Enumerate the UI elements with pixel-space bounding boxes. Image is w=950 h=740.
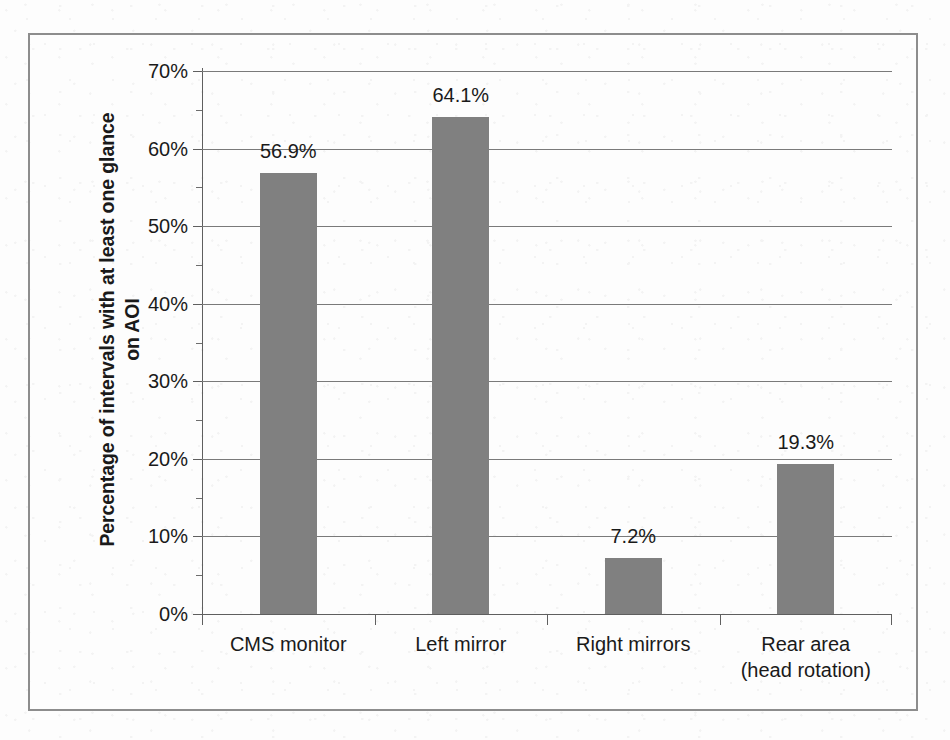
y-tick-minor [196, 110, 202, 111]
y-tick-minor [196, 420, 202, 421]
y-tick-label: 10% [148, 525, 188, 548]
y-tick-major [193, 226, 202, 227]
x-tick-label: Left mirror [415, 631, 506, 657]
y-tick-major [193, 614, 202, 615]
gridline [202, 71, 892, 72]
y-tick-minor [196, 187, 202, 188]
y-tick-label: 30% [148, 370, 188, 393]
bar[interactable] [260, 173, 317, 614]
y-tick-label: 20% [148, 447, 188, 470]
x-tick-label: CMS monitor [230, 631, 347, 657]
y-tick-major [193, 149, 202, 150]
y-tick-label: 60% [148, 137, 188, 160]
bar-value-label: 56.9% [260, 140, 317, 163]
y-tick-major [193, 304, 202, 305]
y-tick-minor [196, 498, 202, 499]
x-tick-major [720, 614, 721, 625]
bar[interactable] [432, 117, 489, 614]
bar-value-label: 19.3% [777, 431, 834, 454]
y-axis-line [202, 68, 203, 617]
x-tick-major [547, 614, 548, 625]
x-tick-major [375, 614, 376, 625]
y-tick-major [193, 459, 202, 460]
x-tick-label: Right mirrors [576, 631, 690, 657]
x-tick-label-line: Left mirror [415, 633, 506, 655]
x-tick-label-line: Right mirrors [576, 633, 690, 655]
bar[interactable] [605, 558, 662, 614]
figure-canvas: Percentage of intervals with at least on… [0, 0, 950, 740]
plot-area: 70%60%50%40%30%20%10%0% 56.9%64.1%7.2%19… [202, 71, 892, 614]
y-tick-label: 70% [148, 60, 188, 83]
y-axis-title: Percentage of intervals with at least on… [95, 65, 144, 595]
x-tick-major [202, 614, 203, 625]
x-tick-label-line: CMS monitor [230, 633, 347, 655]
y-tick-major [193, 381, 202, 382]
y-tick-minor [196, 575, 202, 576]
bar-value-label: 64.1% [432, 84, 489, 107]
figure-frame: Percentage of intervals with at least on… [28, 33, 918, 711]
x-tick-label-line: (head rotation) [741, 659, 871, 681]
y-tick-label: 0% [159, 603, 188, 626]
y-tick-label: 40% [148, 292, 188, 315]
bar-value-label: 7.2% [610, 525, 656, 548]
y-axis-title-line-1: Percentage of intervals with at least on… [96, 113, 118, 547]
y-tick-major [193, 71, 202, 72]
x-tick-label: Rear area(head rotation) [741, 631, 871, 683]
y-axis-title-line-2: on AOI [121, 298, 143, 361]
y-tick-minor [196, 265, 202, 266]
x-tick-major [891, 614, 892, 625]
y-tick-major [193, 536, 202, 537]
y-tick-label: 50% [148, 215, 188, 238]
bar[interactable] [777, 464, 834, 614]
x-tick-label-line: Rear area [761, 633, 850, 655]
y-tick-minor [196, 343, 202, 344]
